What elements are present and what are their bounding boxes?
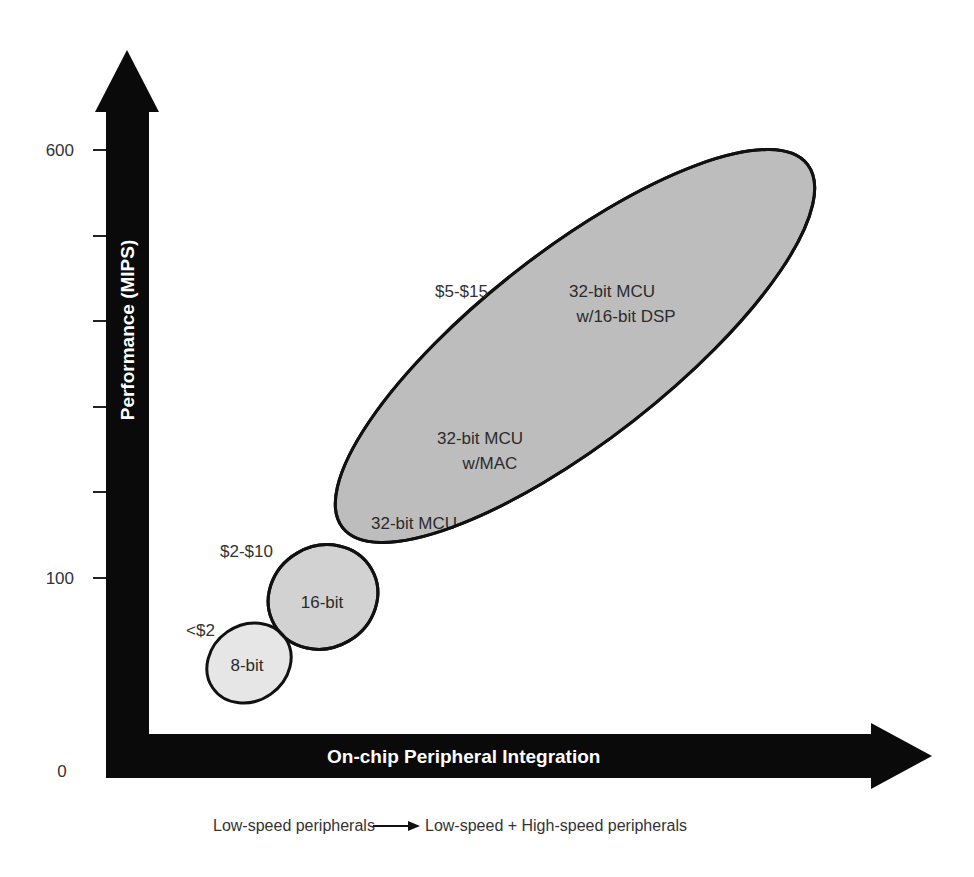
label-32bit-mac-line2: w/MAC <box>462 454 518 473</box>
caption-low-speed: Low-speed peripherals <box>213 817 375 834</box>
label-8-bit: 8-bit <box>230 656 263 675</box>
region-32-bit: 32-bit MCU w/16-bit DSP 32-bit MCU w/MAC… <box>284 90 866 603</box>
price-16-bit: $2-$10 <box>220 542 273 561</box>
performance-vs-integration-diagram: 600 100 0 Performance (MIPS) On-chip Per… <box>0 0 974 877</box>
label-16-bit: 16-bit <box>301 593 344 612</box>
caption-high-speed: Low-speed + High-speed peripherals <box>425 817 687 834</box>
y-tick-label-600: 600 <box>46 141 74 160</box>
y-axis-arrowhead-icon <box>95 50 159 112</box>
x-axis: On-chip Peripheral Integration <box>106 723 932 789</box>
x-axis-arrowhead-icon <box>871 723 932 789</box>
y-axis: 600 100 0 Performance (MIPS) <box>46 50 159 781</box>
x-axis-title: On-chip Peripheral Integration <box>327 746 600 767</box>
origin-label: 0 <box>57 762 66 781</box>
y-tick-label-100: 100 <box>46 569 74 588</box>
y-axis-bar <box>106 110 149 778</box>
y-axis-title: Performance (MIPS) <box>117 240 138 421</box>
label-32bit-mac-line1: 32-bit MCU <box>437 429 523 448</box>
label-32bit-dsp-line1: 32-bit MCU <box>569 282 655 301</box>
x-axis-caption: Low-speed peripherals Low-speed + High-s… <box>213 817 687 834</box>
price-8-bit: <$2 <box>186 621 215 640</box>
price-32-bit: $5-$15 <box>435 282 488 301</box>
label-32bit-dsp-line2: w/16-bit DSP <box>575 307 675 326</box>
caption-arrow-icon <box>408 821 420 831</box>
